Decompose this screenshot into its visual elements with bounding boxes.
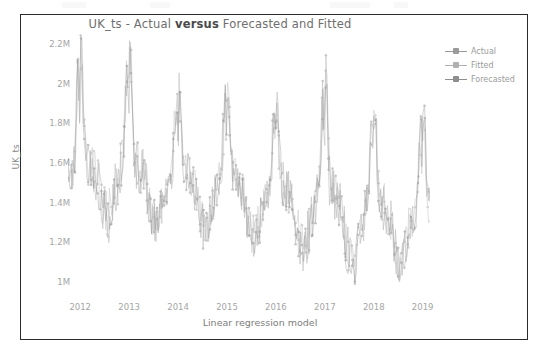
x-tick-label: 2017	[314, 302, 336, 312]
series-fitted	[68, 42, 430, 278]
x-tick-label: 2014	[167, 302, 189, 312]
x-tick-label: 2018	[363, 302, 385, 312]
chart-legend: ActualFittedForecasted	[445, 44, 525, 86]
legend-item-forecasted[interactable]: Forecasted	[445, 72, 525, 86]
y-tick-label: 1.6M	[24, 158, 70, 168]
y-tick-label: 1.4M	[24, 198, 70, 208]
plot-area	[68, 30, 430, 292]
y-tick-label: 1M	[24, 277, 70, 287]
y-tick-label: 1.2M	[24, 237, 70, 247]
top-artifact	[330, 2, 370, 8]
chart-screenshot: UK_ts - Actual versus Forecasted and Fit…	[0, 0, 546, 360]
y-tick-label: 1.8M	[24, 118, 70, 128]
x-tick-label: 2016	[265, 302, 287, 312]
legend-marker-icon	[445, 46, 467, 56]
legend-label: Fitted	[471, 61, 494, 70]
top-artifact	[150, 2, 170, 8]
series-forecasted	[68, 37, 430, 283]
title-emphasis: versus	[175, 17, 219, 31]
x-tick-label: 2013	[118, 302, 140, 312]
legend-item-actual[interactable]: Actual	[445, 44, 525, 58]
legend-label: Actual	[471, 47, 496, 56]
top-artifact	[394, 2, 408, 8]
x-axis-label: Linear regression model	[60, 317, 460, 328]
legend-item-fitted[interactable]: Fitted	[445, 58, 525, 72]
y-axis-ticks: 1M1.2M1.4M1.6M1.8M2M2.2M	[0, 0, 70, 326]
series-actual	[68, 34, 430, 285]
chart-title: UK_ts - Actual versus Forecasted and Fit…	[20, 17, 420, 31]
series-canvas	[68, 30, 430, 292]
x-tick-label: 2015	[216, 302, 238, 312]
legend-label: Forecasted	[471, 75, 515, 84]
legend-marker-icon	[445, 60, 467, 70]
x-tick-label: 2012	[69, 302, 91, 312]
x-tick-label: 2019	[412, 302, 434, 312]
y-tick-label: 2.2M	[24, 39, 70, 49]
legend-marker-icon	[445, 74, 467, 84]
y-tick-label: 2M	[24, 79, 70, 89]
